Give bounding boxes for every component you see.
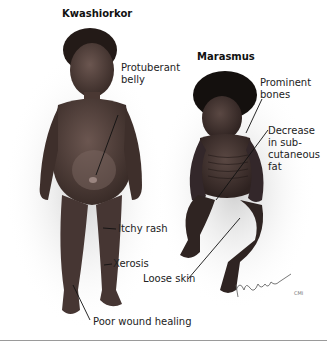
label-protuberant-belly: Protuberant belly xyxy=(121,62,180,86)
label-line: cutaneous xyxy=(268,149,320,161)
label-itchy-rash: Itchy rash xyxy=(118,223,168,235)
label-poor-wound-healing: Poor wound healing xyxy=(93,316,192,328)
illustration xyxy=(0,0,327,346)
label-xerosis: Xerosis xyxy=(113,258,149,270)
label-decrease-subcutaneous-fat: Decrease in sub- cutaneous fat xyxy=(268,125,320,173)
label-line: belly xyxy=(121,74,180,86)
label-line: Prominent xyxy=(260,77,311,89)
torso xyxy=(200,134,256,198)
head xyxy=(70,43,114,97)
kwashiorkor-title: Kwashiorkor xyxy=(62,8,132,19)
label-line: fat xyxy=(268,161,320,173)
label-line: Decrease xyxy=(268,125,320,137)
navel xyxy=(89,177,97,183)
label-loose-skin: Loose skin xyxy=(143,273,195,285)
label-prominent-bones: Prominent bones xyxy=(260,77,311,101)
signature-suffix: CMI xyxy=(294,287,303,299)
head xyxy=(202,96,242,140)
label-line: in sub- xyxy=(268,137,320,149)
label-line: Protuberant xyxy=(121,62,180,74)
marasmus-title: Marasmus xyxy=(197,51,255,62)
bottom-divider xyxy=(0,340,327,341)
label-line: bones xyxy=(260,89,311,101)
